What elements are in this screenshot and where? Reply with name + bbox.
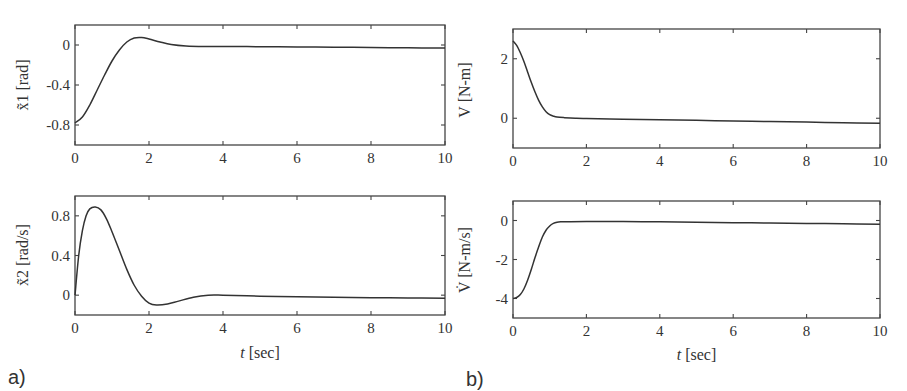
x-tick-label: 0 [71, 320, 79, 336]
x-tick-label: 10 [438, 150, 453, 166]
y-tick-label: -0.8 [46, 117, 70, 133]
x-tick-label: 8 [803, 153, 811, 169]
x-tick-label: 2 [583, 153, 591, 169]
plot-b-bottom: 02468100-2-4V̇ [N-m/s]t [sec] [456, 201, 888, 363]
y-axis-label: x̃1 [rad] [14, 59, 31, 110]
panel-label-b: b) [466, 368, 484, 390]
x-tick-label: 4 [219, 320, 227, 336]
x-tick-label: 2 [583, 323, 591, 339]
x-axis-label: t [sec] [240, 344, 280, 361]
axes-frame [513, 201, 880, 318]
x-tick-label: 0 [509, 153, 517, 169]
panel-label-a: a) [8, 366, 26, 388]
series-line-x2_tilde [75, 207, 445, 305]
x-tick-label: 8 [803, 323, 811, 339]
y-tick-label: 0.4 [51, 248, 70, 264]
x-tick-label: 8 [367, 150, 375, 166]
x-tick-label: 10 [873, 153, 888, 169]
axes-frame [513, 29, 880, 148]
y-tick-label: 0 [501, 213, 509, 229]
y-tick-label: 0 [63, 287, 71, 303]
plot-b-top: 024681020V [N-m] [456, 29, 888, 169]
series-line-V [513, 41, 880, 123]
axes-frame [75, 25, 445, 145]
y-tick-label: -4 [496, 291, 509, 307]
x-tick-label: 6 [293, 320, 301, 336]
y-axis-label: x̃2 [rad/s] [14, 224, 31, 286]
y-tick-label: -0.4 [46, 77, 70, 93]
y-tick-label: -2 [496, 252, 509, 268]
plot-a-bottom: 02468100.80.40x̃2 [rad/s]t [sec] [14, 196, 453, 361]
x-tick-label: 4 [219, 150, 227, 166]
series-line-V_dot [513, 221, 880, 298]
x-tick-label: 4 [656, 323, 664, 339]
x-tick-label: 6 [729, 153, 737, 169]
y-tick-label: 2 [501, 51, 509, 67]
x-tick-label: 6 [729, 323, 737, 339]
x-tick-label: 10 [438, 320, 453, 336]
x-axis-label: t [sec] [677, 346, 717, 363]
x-tick-label: 6 [293, 150, 301, 166]
y-tick-label: 0 [63, 37, 71, 53]
x-tick-label: 0 [509, 323, 517, 339]
x-tick-label: 2 [145, 150, 153, 166]
y-axis-label: V̇ [N-m/s] [456, 227, 473, 293]
x-tick-label: 4 [656, 153, 664, 169]
x-tick-label: 10 [873, 323, 888, 339]
x-tick-label: 2 [145, 320, 153, 336]
y-axis-label: V [N-m] [456, 62, 473, 117]
x-tick-label: 8 [367, 320, 375, 336]
series-line-x1_tilde [75, 37, 445, 123]
y-tick-label: 0.8 [51, 208, 70, 224]
figure-canvas: 02468100-0.4-0.8x̃1 [rad]02468100.80.40x… [0, 0, 907, 391]
x-tick-label: 0 [71, 150, 79, 166]
y-tick-label: 0 [501, 110, 509, 126]
plot-a-top: 02468100-0.4-0.8x̃1 [rad] [14, 25, 453, 166]
